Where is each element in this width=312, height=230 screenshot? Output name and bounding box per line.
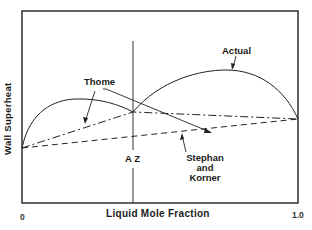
stephan-korner-label: Stephan and Korner: [180, 153, 230, 183]
thome-label: Thome: [84, 76, 115, 87]
plot-frame: [22, 11, 298, 203]
stephan-arrowhead: [180, 133, 184, 140]
az-label: A Z: [125, 153, 140, 164]
actual-curve: [22, 70, 298, 148]
x-tick-0: 0: [20, 212, 25, 222]
stephan-label-line3: Korner: [180, 173, 230, 183]
actual-label: Actual: [222, 45, 251, 56]
thome-arrow-left: [85, 91, 95, 122]
thome-arrowhead-left: [83, 117, 88, 124]
thome-arrow-right: [103, 89, 210, 132]
actual-arrowhead: [231, 63, 235, 70]
x-tick-1: 1.0: [292, 210, 304, 220]
y-axis-label: Wall Superheat: [2, 83, 13, 155]
thome-line: [22, 112, 298, 148]
x-axis-label: Liquid Mole Fraction: [106, 208, 210, 219]
chart-plot: [0, 0, 312, 230]
stephan-korner-line: [22, 119, 298, 148]
thome-arrowhead-right: [204, 128, 212, 133]
